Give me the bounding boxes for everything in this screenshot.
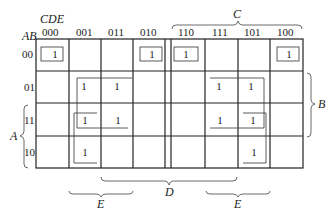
brace-label-c: C [233,7,242,21]
row-variables-label: AB [21,29,37,43]
cell-01-011: 1 [114,80,120,92]
cell-11-001: 1 [82,114,88,126]
cell-00-100: 1 [286,48,292,60]
cell-01-001: 1 [81,80,87,92]
col-header: 100 [277,26,294,38]
col-header: 011 [108,26,124,38]
cell-00-110: 1 [183,48,189,60]
cell-11-101: 1 [250,114,256,126]
col-header: 111 [212,26,228,38]
row-header: 00 [22,48,34,60]
row-header: 10 [24,146,36,158]
col-header: 101 [244,26,261,38]
cell-11-111: 1 [217,114,223,126]
karnaugh-map: CDE AB 000 001 011 010 110 111 101 100 0… [0,0,336,222]
groupings [41,47,299,163]
row-header: 11 [24,114,35,126]
brace-label-e-right: E [233,197,242,211]
cell-11-011: 1 [115,114,121,126]
cell-01-101: 1 [248,80,254,92]
col-header: 001 [76,26,93,38]
brace-d [101,177,237,185]
col-header: 110 [178,26,195,38]
brace-label-a: A [9,129,18,143]
row-header: 01 [24,81,35,93]
braces [20,21,315,197]
grid [36,39,303,168]
cell-10-101: 1 [251,146,257,158]
brace-label-b: B [318,97,326,111]
cell-10-001: 1 [82,146,88,158]
col-header: 010 [140,26,157,38]
column-headers: 000 001 011 010 110 111 101 100 [42,26,294,38]
col-variables-label: CDE [40,12,65,26]
brace-label-e-left: E [96,197,105,211]
cell-00-010: 1 [149,48,155,60]
col-header: 000 [42,26,59,38]
cell-00-000: 1 [52,48,58,60]
brace-b [307,73,315,137]
cell-01-111: 1 [216,80,222,92]
brace-label-d: D [164,185,174,199]
